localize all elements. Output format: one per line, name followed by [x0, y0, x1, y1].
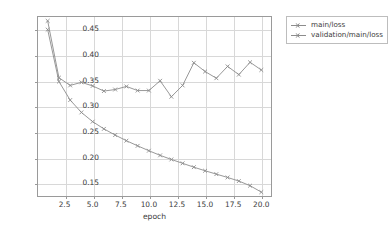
series-marker — [259, 190, 263, 194]
series-marker — [181, 84, 185, 88]
chart-legend: main/loss validation/main/loss — [286, 16, 388, 44]
series-marker — [192, 61, 196, 65]
series-marker — [248, 60, 252, 64]
x-tick-label: 20.0 — [244, 201, 278, 208]
series-marker — [124, 139, 128, 143]
legend-item-validation-main-loss: validation/main/loss — [290, 30, 383, 40]
data-series-layer — [37, 16, 272, 197]
legend-label-main-loss: main/loss — [311, 21, 345, 28]
series-marker — [102, 127, 106, 131]
series-marker — [237, 73, 241, 77]
legend-marker-main-loss — [290, 21, 307, 30]
series-marker — [158, 79, 162, 83]
series-marker — [248, 184, 252, 188]
series-marker — [91, 120, 95, 124]
series-validation-main-loss — [46, 19, 263, 99]
series-marker — [68, 98, 72, 102]
x-axis-title: epoch — [0, 212, 309, 221]
series-marker — [136, 144, 140, 148]
series-marker — [203, 70, 207, 74]
series-marker — [158, 153, 162, 157]
legend-marker-validation-main-loss — [290, 31, 307, 40]
series-line — [48, 21, 262, 97]
legend-item-main-loss: main/loss — [290, 20, 383, 30]
series-marker — [226, 64, 230, 68]
series-main-loss — [46, 28, 263, 194]
series-marker — [259, 68, 263, 72]
series-marker — [113, 133, 117, 137]
series-marker — [80, 111, 84, 115]
series-marker — [169, 95, 173, 99]
legend-label-validation-main-loss: validation/main/loss — [311, 31, 383, 38]
series-marker — [147, 149, 151, 153]
series-marker — [214, 76, 218, 80]
